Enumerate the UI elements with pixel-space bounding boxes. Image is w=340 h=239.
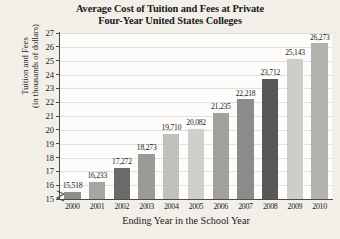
y-tick-label: 27: [32, 28, 54, 38]
x-tick-label: 2006: [208, 201, 233, 212]
y-tick-label: 15: [32, 194, 54, 204]
bar-value-label: 16,233: [79, 171, 116, 180]
y-tick-label: 23: [32, 83, 54, 93]
x-tick-label: 2010: [307, 201, 332, 212]
y-tick-label: 18: [32, 153, 54, 163]
y-tick: 17: [32, 166, 60, 176]
y-tick: 24: [32, 70, 60, 80]
chart-title-line-2: Four-Year United States Colleges: [0, 15, 340, 27]
bar: [287, 59, 303, 199]
bar: [114, 168, 130, 199]
x-tick-label: 2001: [85, 201, 110, 212]
bar-value-label: 23,712: [252, 68, 289, 77]
x-tick-label: 2005: [184, 201, 209, 212]
y-tick-label: 21: [32, 111, 54, 121]
x-tick-label: 2002: [109, 201, 134, 212]
x-tick-label: 2004: [159, 201, 184, 212]
bars-layer: 15,51816,23317,27218,27319,71020,08221,2…: [60, 33, 332, 199]
y-tick-label: 24: [32, 70, 54, 80]
x-tick-label: 2003: [134, 201, 159, 212]
x-axis-ticks: 2000200120022003200420052006200720082009…: [60, 201, 332, 213]
bar-value-label: 21,235: [202, 102, 239, 111]
y-tick-label: 26: [32, 42, 54, 52]
x-tick-label: 2000: [60, 201, 85, 212]
bar: [213, 113, 229, 199]
y-tick-label: 25: [32, 56, 54, 66]
y-tick: 22: [32, 97, 60, 107]
bar-value-label: 18,273: [128, 143, 165, 152]
y-tick-label: 19: [32, 139, 54, 149]
bar-chart-figure: Average Cost of Tuition and Fees at Priv…: [0, 0, 340, 239]
chart-title: Average Cost of Tuition and Fees at Priv…: [0, 3, 340, 26]
y-tick-label: 22: [32, 97, 54, 107]
y-tick-label: 16: [32, 180, 54, 190]
bar-value-label: 20,082: [178, 118, 215, 127]
bar: [311, 43, 327, 199]
bar: [163, 134, 179, 199]
bar: [89, 182, 105, 199]
y-axis-title-line-1: Tuition and Fees: [20, 0, 30, 146]
y-tick: 27: [32, 28, 60, 38]
bar-value-label: 17,272: [103, 157, 140, 166]
y-tick: 20: [32, 125, 60, 135]
y-tick: 25: [32, 56, 60, 66]
y-tick: 18: [32, 153, 60, 163]
bar: [237, 99, 253, 199]
chart-title-line-1: Average Cost of Tuition and Fees at Priv…: [0, 3, 340, 15]
y-tick: 21: [32, 111, 60, 121]
y-tick-label: 20: [32, 125, 54, 135]
bar-value-label: 15,518: [54, 181, 91, 190]
bar-value-label: 22,218: [227, 89, 264, 98]
bar: [262, 79, 278, 200]
bar: [138, 154, 154, 199]
bar-value-label: 26,273: [301, 33, 338, 42]
y-tick: 26: [32, 42, 60, 52]
x-axis-title: Ending Year in the School Year: [40, 215, 332, 226]
y-tick: 19: [32, 139, 60, 149]
bar: [188, 129, 204, 199]
bar-value-label: 25,143: [277, 48, 314, 57]
y-tick-label: 17: [32, 166, 54, 176]
x-tick-label: 2008: [258, 201, 283, 212]
y-tick: 23: [32, 83, 60, 93]
bar: [64, 192, 80, 199]
x-tick-label: 2007: [233, 201, 258, 212]
x-tick-label: 2009: [283, 201, 308, 212]
